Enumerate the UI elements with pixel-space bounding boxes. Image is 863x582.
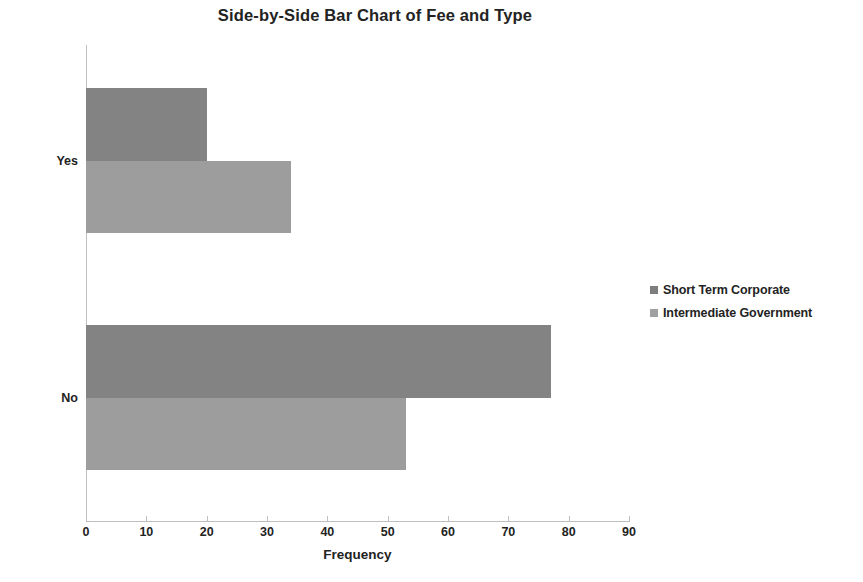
legend-item-0: Short Term Corporate: [650, 283, 855, 297]
bar-yes-series-1: [86, 161, 291, 234]
x-tick-label-30: 30: [247, 525, 287, 539]
x-tick-label-60: 60: [428, 525, 468, 539]
x-tick-label-70: 70: [488, 525, 528, 539]
category-label-no: No: [18, 391, 78, 405]
x-tick-label-40: 40: [307, 525, 347, 539]
x-tick-80: [569, 516, 570, 522]
x-tick-50: [388, 516, 389, 522]
x-tick-60: [448, 516, 449, 522]
bar-chart: Side-by-Side Bar Chart of Fee and Type 0…: [0, 0, 863, 582]
x-tick-label-50: 50: [368, 525, 408, 539]
x-tick-10: [146, 516, 147, 522]
x-tick-label-10: 10: [126, 525, 166, 539]
x-tick-0: [86, 516, 87, 522]
x-tick-40: [327, 516, 328, 522]
x-tick-label-90: 90: [609, 525, 649, 539]
bar-no-series-0: [86, 325, 551, 398]
x-tick-30: [267, 516, 268, 522]
x-tick-label-20: 20: [187, 525, 227, 539]
bar-yes-series-0: [86, 88, 207, 161]
x-tick-70: [508, 516, 509, 522]
x-tick-label-80: 80: [549, 525, 589, 539]
chart-legend: Short Term CorporateIntermediate Governm…: [650, 283, 855, 329]
legend-item-1: Intermediate Government: [650, 306, 855, 320]
x-tick-90: [629, 516, 630, 522]
x-tick-label-0: 0: [66, 525, 106, 539]
bar-no-series-1: [86, 398, 406, 471]
legend-swatch-icon-0: [650, 286, 658, 294]
legend-label-1: Intermediate Government: [663, 306, 812, 320]
x-tick-20: [207, 516, 208, 522]
category-label-yes: Yes: [18, 154, 78, 168]
legend-label-0: Short Term Corporate: [663, 283, 790, 297]
x-axis-title: Frequency: [86, 547, 629, 562]
legend-swatch-icon-1: [650, 309, 658, 317]
x-axis-line: [86, 521, 629, 522]
chart-title: Side-by-Side Bar Chart of Fee and Type: [0, 6, 750, 25]
